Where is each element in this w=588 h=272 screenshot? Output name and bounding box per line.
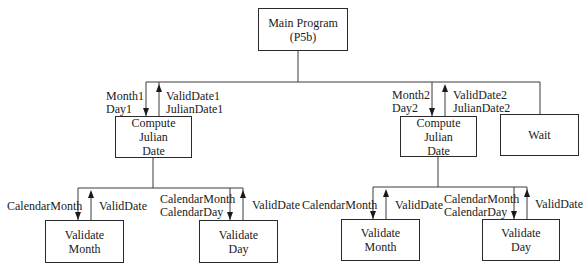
flow-label-compute2-in: Month2 Day2 <box>392 89 430 115</box>
wait-node: Wait <box>500 114 579 156</box>
node-label: Julian <box>424 130 453 144</box>
flow-label-vd2-out: ValidDate <box>535 198 583 211</box>
flow-label-vm2-in: CalendarMonth <box>302 199 377 212</box>
node-label: Date <box>142 144 165 158</box>
flow-text: ValidDate <box>535 198 583 211</box>
flow-text: JulianDate1 <box>166 103 223 116</box>
node-label: Validate <box>219 228 258 242</box>
validate-day-node-1: Validate Day <box>199 220 278 263</box>
flow-label-vd1-in: CalendarMonth CalendarDay <box>160 193 235 219</box>
node-label: Date <box>427 144 450 158</box>
flow-label-compute1-in: Month1 Day1 <box>106 90 144 116</box>
node-label: Day <box>229 242 249 256</box>
validate-month-node-1: Validate Month <box>45 220 124 263</box>
flow-text: CalendarMonth <box>302 199 377 212</box>
node-label: Julian <box>139 130 168 144</box>
flow-text: CalendarDay <box>160 206 235 219</box>
node-label: Day <box>511 240 531 254</box>
flow-text: Day2 <box>392 102 430 115</box>
node-label: Validate <box>361 226 400 240</box>
flow-text: ValidDate <box>252 199 300 212</box>
flow-label-compute2-out: ValidDate2 JulianDate2 <box>453 89 510 115</box>
structure-chart: Main Program (P5b) Compute Julian Date C… <box>0 0 588 272</box>
flow-text: ValidDate <box>99 200 147 213</box>
node-label: Compute <box>417 116 461 130</box>
flow-label-compute1-out: ValidDate1 JulianDate1 <box>166 90 223 116</box>
flow-text: JulianDate2 <box>453 102 510 115</box>
validate-day-node-2: Validate Day <box>482 219 560 261</box>
flow-label-vm1-in: CalendarMonth <box>7 200 82 213</box>
node-label: Month <box>364 240 396 254</box>
node-label: Compute <box>132 116 176 130</box>
node-label: (P5b) <box>290 30 317 44</box>
node-label: Wait <box>528 128 550 142</box>
node-label: Validate <box>65 228 104 242</box>
flow-label-vd1-out: ValidDate <box>252 199 300 212</box>
validate-month-node-2: Validate Month <box>341 219 420 261</box>
flow-text: ValidDate <box>395 199 443 212</box>
flow-text: CalendarMonth <box>7 200 82 213</box>
node-label: Month <box>68 242 100 256</box>
flow-text: CalendarDay <box>444 206 519 219</box>
flow-text: Day1 <box>106 103 144 116</box>
main-program-node: Main Program (P5b) <box>258 8 348 51</box>
flow-label-vd2-in: CalendarMonth CalendarDay <box>444 193 519 219</box>
compute-julian-date-node-1: Compute Julian Date <box>115 116 192 158</box>
node-label: Main Program <box>268 16 338 30</box>
node-label: Validate <box>501 226 540 240</box>
flow-label-vm2-out: ValidDate <box>395 199 443 212</box>
compute-julian-date-node-2: Compute Julian Date <box>400 116 477 157</box>
flow-label-vm1-out: ValidDate <box>99 200 147 213</box>
